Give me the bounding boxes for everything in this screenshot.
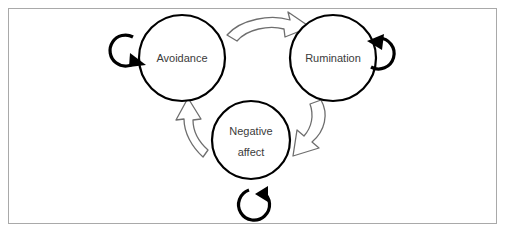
self-loop-negative-affect — [239, 186, 270, 220]
node-circle — [212, 101, 290, 179]
loop-arrowhead — [255, 186, 268, 202]
node-rumination[interactable]: Rumination — [290, 15, 376, 101]
connector-rumination-to-negative-affect — [293, 100, 325, 156]
node-avoidance[interactable]: Avoidance — [139, 15, 225, 101]
connector-negative-affect-to-avoidance — [176, 98, 208, 157]
node-label-avoidance: Avoidance — [156, 52, 207, 64]
cycle-diagram: Avoidance Rumination Negative affect — [9, 9, 496, 223]
diagram-frame: Avoidance Rumination Negative affect — [8, 8, 497, 224]
block-arrow-shape — [176, 98, 208, 157]
node-label-negative-affect-line2: affect — [238, 146, 265, 158]
block-arrow-shape — [293, 100, 325, 156]
node-negative-affect[interactable]: Negative affect — [212, 101, 290, 179]
node-label-rumination: Rumination — [305, 52, 361, 64]
node-label-negative-affect-line1: Negative — [229, 125, 272, 137]
